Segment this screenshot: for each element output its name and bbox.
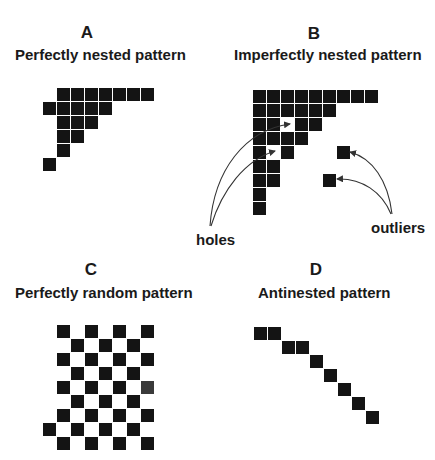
presence-cell	[57, 88, 70, 101]
presence-cell	[324, 369, 337, 382]
presence-cell	[141, 325, 154, 338]
presence-cell	[309, 90, 322, 103]
presence-cell	[267, 174, 280, 187]
presence-cell	[253, 118, 266, 131]
panel-b-title: Imperfectly nested pattern	[234, 47, 422, 63]
outlier-cell	[337, 146, 350, 159]
panel-c-letter: C	[71, 261, 111, 278]
presence-cell	[141, 353, 154, 366]
presence-cell	[253, 160, 266, 173]
presence-cell	[85, 353, 98, 366]
presence-cell	[310, 355, 323, 368]
presence-cell	[57, 102, 70, 115]
presence-cell	[323, 90, 336, 103]
panel-a-letter: A	[67, 24, 107, 41]
presence-cell	[57, 325, 70, 338]
presence-cell	[337, 90, 350, 103]
presence-cell	[295, 104, 308, 117]
panel-d-letter: D	[296, 261, 336, 278]
presence-cell	[141, 88, 154, 101]
presence-cell	[85, 409, 98, 422]
presence-cell	[254, 327, 267, 340]
presence-cell	[351, 90, 364, 103]
panel-a-title: Perfectly nested pattern	[15, 47, 186, 63]
presence-cell	[352, 397, 365, 410]
presence-cell	[295, 118, 308, 131]
presence-cell	[253, 104, 266, 117]
presence-cell	[253, 146, 266, 159]
presence-cell	[71, 423, 84, 436]
presence-cell	[43, 423, 56, 436]
presence-cell	[141, 381, 154, 394]
presence-cell	[85, 88, 98, 101]
presence-cell	[71, 102, 84, 115]
presence-cell	[127, 339, 140, 352]
outliers-label: outliers	[371, 220, 425, 235]
presence-cell	[99, 423, 112, 436]
presence-cell	[253, 174, 266, 187]
presence-cell	[113, 381, 126, 394]
presence-cell	[281, 90, 294, 103]
presence-cell	[85, 102, 98, 115]
presence-cell	[57, 381, 70, 394]
presence-cell	[99, 339, 112, 352]
presence-cell	[85, 437, 98, 450]
presence-cell	[113, 353, 126, 366]
presence-cell	[127, 395, 140, 408]
presence-cell	[71, 116, 84, 129]
presence-cell	[99, 102, 112, 115]
presence-cell	[71, 367, 84, 380]
presence-cell	[295, 132, 308, 145]
presence-cell	[71, 88, 84, 101]
presence-cell	[71, 130, 84, 143]
presence-cell	[267, 90, 280, 103]
outlier-arrow-1	[350, 152, 392, 214]
presence-cell	[281, 132, 294, 145]
outlier-cell	[323, 174, 336, 187]
presence-cell	[309, 118, 322, 131]
presence-cell	[268, 327, 281, 340]
presence-cell	[57, 437, 70, 450]
presence-cell	[267, 104, 280, 117]
presence-cell	[71, 395, 84, 408]
presence-cell	[99, 88, 112, 101]
presence-cell	[127, 88, 140, 101]
presence-cell	[43, 158, 56, 171]
presence-cell	[253, 188, 266, 201]
presence-cell	[267, 132, 280, 145]
presence-cell	[127, 367, 140, 380]
presence-cell	[99, 395, 112, 408]
presence-cell	[309, 104, 322, 117]
presence-cell	[267, 160, 280, 173]
presence-cell	[113, 325, 126, 338]
presence-cell	[296, 341, 309, 354]
presence-cell	[57, 130, 70, 143]
outlier-arrow-2	[337, 179, 391, 214]
presence-cell	[253, 132, 266, 145]
presence-cell	[267, 118, 280, 131]
panel-c-title: Perfectly random pattern	[15, 285, 193, 301]
presence-cell	[113, 437, 126, 450]
presence-cell	[57, 116, 70, 129]
presence-cell	[323, 104, 336, 117]
presence-cell	[282, 341, 295, 354]
holes-label: holes	[196, 232, 235, 247]
presence-cell	[253, 90, 266, 103]
presence-cell	[71, 339, 84, 352]
presence-cell	[281, 146, 294, 159]
panel-b-letter: B	[294, 25, 334, 42]
presence-cell	[281, 104, 294, 117]
presence-cell	[113, 88, 126, 101]
presence-cell	[113, 409, 126, 422]
presence-cell	[57, 144, 70, 157]
presence-cell	[141, 409, 154, 422]
presence-cell	[141, 437, 154, 450]
presence-cell	[295, 90, 308, 103]
panel-d-title: Antinested pattern	[258, 285, 391, 301]
presence-cell	[85, 325, 98, 338]
presence-cell	[366, 411, 379, 424]
presence-cell	[57, 353, 70, 366]
presence-cell	[99, 367, 112, 380]
presence-cell	[127, 423, 140, 436]
presence-cell	[43, 102, 56, 115]
